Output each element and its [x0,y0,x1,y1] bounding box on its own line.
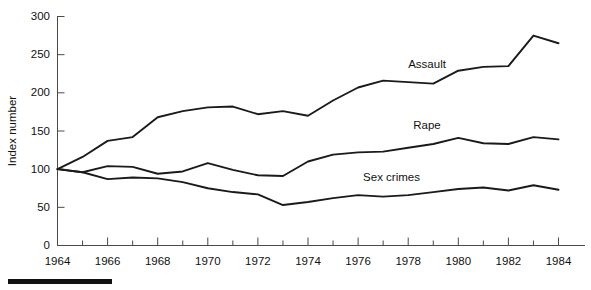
series-label-rape: Rape [413,119,441,131]
x-tick-label: 1974 [295,255,321,267]
series-annotations: AssaultRapeSex crimes [363,58,447,183]
y-axis: 050100150200250300 Index number [6,10,65,251]
series-label-assault: Assault [408,58,447,70]
y-tick-label: 50 [37,201,50,213]
x-tick-label: 1984 [546,255,572,267]
x-tick-label: 1972 [245,255,271,267]
x-tick-label: 1968 [145,255,171,267]
x-tick-label: 1980 [446,255,472,267]
y-axis-ticks [58,17,65,246]
x-tick-label: 1970 [195,255,221,267]
series-line-sex-crimes [58,169,559,205]
x-tick-label: 1976 [345,255,371,267]
x-axis-tick-labels: 1964196619681970197219741976197819801982… [45,255,572,267]
series-line-assault [58,36,559,170]
x-tick-label: 1964 [45,255,71,267]
y-axis-tick-labels: 050100150200250300 [31,10,50,251]
x-axis: 1964196619681970197219741976197819801982… [45,238,585,268]
y-tick-label: 250 [31,48,50,60]
series-label-sex-crimes: Sex crimes [363,171,420,183]
y-tick-label: 0 [44,239,50,251]
x-tick-label: 1978 [395,255,421,267]
x-tick-label: 1966 [95,255,121,267]
index-number-line-chart: 050100150200250300 Index number 19641966… [0,0,591,290]
footer-rule-bar [8,279,112,284]
y-tick-label: 100 [31,163,50,175]
series-line-rape [58,137,559,176]
chart-figure: 050100150200250300 Index number 19641966… [0,0,591,290]
series-lines [58,36,559,205]
y-tick-label: 200 [31,86,50,98]
x-axis-ticks [58,238,559,246]
y-tick-label: 150 [31,125,50,137]
y-axis-title: Index number [6,96,18,166]
x-tick-label: 1982 [496,255,522,267]
y-tick-label: 300 [31,10,50,22]
